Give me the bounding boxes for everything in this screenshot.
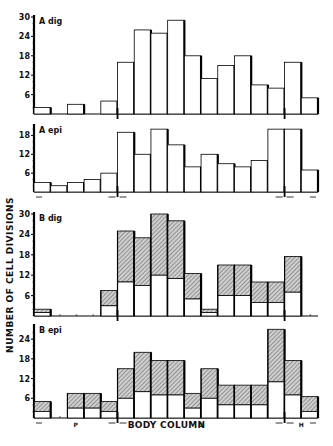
bar-open	[34, 313, 51, 316]
bar	[134, 154, 151, 192]
bar-open	[184, 408, 201, 418]
y-tick-label: 12	[19, 375, 30, 384]
y-tick-label: 6	[24, 169, 30, 178]
panel-b-dig: 612182430B dig	[19, 210, 318, 321]
bar	[285, 129, 302, 192]
bar	[184, 167, 201, 192]
bar-hatched	[34, 402, 51, 412]
bar-hatched	[268, 329, 285, 382]
bar-open	[251, 302, 268, 316]
bar	[301, 98, 318, 114]
bar-hatched	[201, 309, 218, 312]
bar	[251, 161, 268, 192]
bar	[168, 145, 185, 192]
bar-hatched	[34, 309, 51, 312]
bar-hatched	[301, 397, 318, 412]
y-tick-label: 12	[19, 71, 30, 80]
bar-hatched	[118, 369, 135, 399]
bar-hatched	[184, 393, 201, 408]
bar-open	[118, 282, 135, 316]
bar	[134, 30, 151, 114]
bar-open	[251, 405, 268, 418]
bar-hatched	[84, 393, 101, 408]
bar	[34, 108, 51, 114]
y-tick-label: 24	[19, 230, 31, 239]
bar-hatched	[285, 361, 302, 396]
panel-a-epi: 61218A epi	[19, 124, 318, 197]
y-tick-label: 12	[19, 271, 30, 280]
y-tick-label: 18	[19, 52, 31, 61]
bar-open	[285, 395, 302, 418]
bar-hatched	[67, 393, 84, 408]
bar-open	[234, 405, 251, 418]
bar	[218, 66, 235, 115]
bar	[201, 78, 218, 114]
bar-hatched	[134, 352, 151, 391]
y-tick-label: 18	[19, 355, 31, 364]
bar	[151, 129, 168, 192]
bar	[51, 186, 68, 192]
bar-hatched	[184, 274, 201, 300]
bar	[101, 173, 118, 192]
y-tick-label: 6	[24, 91, 30, 100]
bar-open	[184, 299, 201, 316]
bar-hatched	[268, 282, 285, 302]
bar-hatched	[251, 282, 268, 302]
bar	[234, 56, 251, 114]
y-tick-label: 6	[24, 292, 30, 301]
bar-hatched	[151, 214, 168, 275]
bar-hatched	[201, 369, 218, 399]
bar	[301, 170, 318, 192]
bar-hatched	[251, 385, 268, 405]
bar	[168, 20, 185, 114]
y-tick-label: 24	[19, 335, 31, 344]
bar	[34, 183, 51, 192]
bar-open	[218, 405, 235, 418]
bar-hatched	[285, 257, 302, 293]
bar-hatched	[234, 265, 251, 296]
bar	[201, 154, 218, 192]
panel-label: A dig	[39, 17, 62, 26]
bar-open	[101, 411, 118, 418]
bar-hatched	[134, 238, 151, 286]
bar	[67, 104, 84, 114]
panel-label: B epi	[39, 326, 62, 335]
bar	[285, 62, 302, 114]
bar-open	[201, 313, 218, 316]
bar-open	[201, 398, 218, 418]
y-tick-label: 6	[24, 394, 30, 403]
bar	[268, 129, 285, 192]
bar	[118, 132, 135, 192]
bar-open	[118, 398, 135, 418]
bar-hatched	[101, 291, 118, 306]
bar-hatched	[101, 402, 118, 412]
bar	[84, 179, 101, 192]
bar-hatched	[218, 265, 235, 296]
bar-hatched	[218, 385, 235, 405]
bar-hatched	[168, 361, 185, 396]
bar	[218, 164, 235, 192]
panel-b-epi: 6121824B epiPGH	[19, 324, 318, 428]
y-tick-label: 30	[19, 13, 31, 22]
panel-a-dig: 612182430A dig	[19, 13, 318, 119]
bar-open	[168, 395, 185, 418]
bar-open	[151, 395, 168, 418]
histogram-figure: 612182430A dig61218A epi612182430B dig61…	[0, 0, 333, 446]
bar	[268, 88, 285, 114]
bar-open	[218, 296, 235, 316]
panel-label: B dig	[39, 214, 62, 223]
bar-open	[301, 411, 318, 418]
bar-open	[34, 411, 51, 418]
panel-label: A epi	[39, 126, 62, 135]
y-tick-label: 18	[19, 131, 31, 140]
bar	[118, 62, 135, 114]
bar-open	[134, 392, 151, 418]
y-tick-label: 18	[19, 251, 31, 260]
bar	[251, 85, 268, 114]
bar-hatched	[234, 385, 251, 405]
bar-open	[168, 279, 185, 316]
bar	[151, 33, 168, 114]
bar-hatched	[118, 231, 135, 282]
bar-open	[67, 408, 84, 418]
bar-open	[151, 275, 168, 316]
